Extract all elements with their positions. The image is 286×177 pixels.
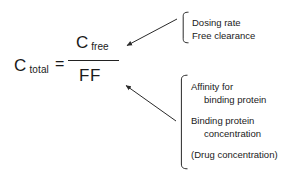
callout-line: Dosing rate <box>192 17 255 30</box>
callout-denominator-text: Affinity for binding protein Binding pro… <box>191 81 278 162</box>
callout-line: Affinity for <box>191 81 278 94</box>
callout-group: Affinity for binding protein <box>191 81 278 106</box>
total-concentration-term: Ctotal <box>14 56 49 76</box>
callout-group: Dosing rate Free clearance <box>192 17 255 42</box>
equation-diagram: Ctotal = Cfree FF Dosing rate Free clear… <box>0 0 286 177</box>
free-concentration-term: Cfree <box>76 33 109 53</box>
callout-line: binding protein <box>191 94 278 107</box>
c-total-subscript: total <box>29 64 48 75</box>
free-fraction-term: FF <box>79 66 101 86</box>
fraction-bar <box>68 60 119 61</box>
equation-group: Ctotal = Cfree FF <box>0 0 140 177</box>
c-free-symbol: C <box>76 33 88 52</box>
equals-sign: = <box>55 55 64 73</box>
c-free-subscript: free <box>91 41 108 52</box>
callout-line: Free clearance <box>192 30 255 43</box>
left-brace-icon <box>179 11 190 44</box>
callout-numerator-text: Dosing rate Free clearance <box>192 17 255 42</box>
left-brace-icon <box>177 74 189 170</box>
callout-group: Binding protein concentration <box>191 115 278 140</box>
c-total-symbol: C <box>14 56 26 75</box>
callout-line: concentration <box>191 128 278 141</box>
callout-line: Binding protein <box>191 115 278 128</box>
callout-group: (Drug concentration) <box>191 149 278 162</box>
callout-line: (Drug concentration) <box>191 149 278 162</box>
